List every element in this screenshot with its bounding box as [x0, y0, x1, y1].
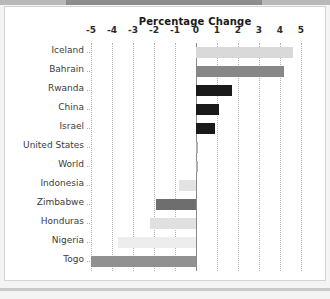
chart-card: Percentage Change -5-4-3-2-1012345Icelan…: [4, 6, 326, 281]
x-axis-tick-label: 4: [277, 25, 283, 35]
bar-row: Zimbabwe: [91, 195, 301, 214]
y-axis-category-label: Rwanda: [48, 83, 84, 93]
bar[interactable]: [196, 104, 219, 115]
y-axis-category-label: World: [58, 159, 84, 169]
x-axis-tick-label: 3: [256, 25, 262, 35]
x-axis-tick-label: -2: [149, 25, 159, 35]
x-axis-tick-label: 1: [214, 25, 220, 35]
y-axis-category-label: Iceland: [51, 45, 84, 55]
y-axis-category-label: Israel: [59, 121, 84, 131]
bar-row: China: [91, 100, 301, 119]
bar-row: Rwanda: [91, 81, 301, 100]
bar-row: Honduras: [91, 214, 301, 233]
x-axis-tick-label: -3: [128, 25, 138, 35]
y-axis-category-label: Zimbabwe: [37, 197, 84, 207]
bar[interactable]: [196, 47, 293, 58]
y-axis-tick-mark: [87, 52, 90, 53]
bar[interactable]: [196, 123, 215, 134]
bar-row: World: [91, 157, 301, 176]
y-axis-category-label: China: [58, 102, 84, 112]
y-axis-tick-mark: [87, 242, 90, 243]
y-axis-tick-mark: [87, 147, 90, 148]
bar[interactable]: [179, 180, 196, 191]
bar-row: Iceland: [91, 43, 301, 62]
y-axis-category-label: Nigeria: [52, 235, 84, 245]
plot-area: -5-4-3-2-1012345IcelandBahrainRwandaChin…: [91, 43, 301, 271]
y-axis-category-label: Togo: [63, 254, 84, 264]
y-axis-tick-mark: [87, 128, 90, 129]
bar[interactable]: [118, 237, 196, 248]
x-axis-tick-label: 0: [193, 25, 199, 35]
bar-row: Togo: [91, 252, 301, 271]
x-axis-tick-label: 5: [298, 25, 304, 35]
y-axis-category-label: Indonesia: [40, 178, 84, 188]
x-axis-tick-label: -5: [86, 25, 96, 35]
x-axis-tick-label: 2: [235, 25, 241, 35]
y-axis-tick-mark: [87, 109, 90, 110]
y-axis-category-label: Bahrain: [49, 64, 84, 74]
y-axis-tick-mark: [87, 223, 90, 224]
y-axis-tick-mark: [87, 204, 90, 205]
bar[interactable]: [196, 85, 232, 96]
y-axis-category-label: United States: [23, 140, 84, 150]
bar[interactable]: [196, 142, 198, 153]
y-axis-tick-mark: [87, 90, 90, 91]
window-top-band-inner: [66, 0, 262, 5]
y-axis-tick-mark: [87, 185, 90, 186]
bar[interactable]: [196, 161, 198, 172]
bar-row: Indonesia: [91, 176, 301, 195]
y-axis-tick-mark: [87, 71, 90, 72]
x-axis-tick-label: -1: [170, 25, 180, 35]
bar-row: United States: [91, 138, 301, 157]
x-axis-tick-label: -4: [107, 25, 117, 35]
bar[interactable]: [196, 66, 284, 77]
window-top-band: [0, 0, 330, 5]
bar-row: Israel: [91, 119, 301, 138]
x-gridline: [301, 43, 302, 271]
y-axis-tick-mark: [87, 166, 90, 167]
bar[interactable]: [150, 218, 196, 229]
chart-page: Percentage Change -5-4-3-2-1012345Icelan…: [0, 0, 330, 299]
y-axis-category-label: Honduras: [41, 216, 84, 226]
window-bottom-band: [0, 288, 330, 291]
bar[interactable]: [156, 199, 196, 210]
bar-row: Nigeria: [91, 233, 301, 252]
bar[interactable]: [91, 256, 196, 267]
y-axis-tick-mark: [87, 261, 90, 262]
bar-row: Bahrain: [91, 62, 301, 81]
